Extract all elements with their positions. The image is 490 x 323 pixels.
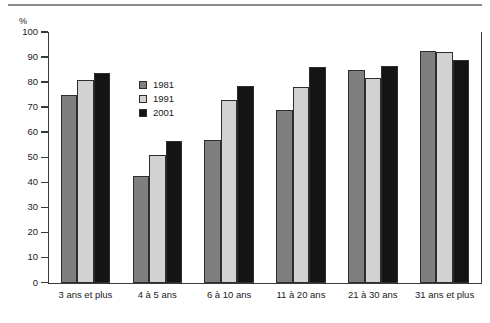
y-axis-tick xyxy=(41,232,48,234)
bar xyxy=(453,60,470,283)
y-axis-tick xyxy=(41,207,48,209)
bar xyxy=(149,155,166,283)
x-axis-category-label: 31 ans et plus xyxy=(399,289,490,300)
y-axis-tick-label: 90 xyxy=(0,52,38,62)
bar xyxy=(237,86,254,283)
y-axis-tick xyxy=(41,81,48,83)
y-axis-unit-label: % xyxy=(19,16,27,26)
legend-swatch xyxy=(139,81,147,89)
bar xyxy=(77,80,94,283)
bar xyxy=(133,176,150,282)
y-axis-tick xyxy=(41,131,48,133)
bar xyxy=(420,51,437,283)
bar-chart-figure: % 198119912001 10090807060504030201003 a… xyxy=(0,0,490,323)
legend-label: 1991 xyxy=(153,94,174,104)
y-axis-tick xyxy=(41,282,48,284)
bar xyxy=(221,100,238,283)
y-axis-tick-label: 60 xyxy=(0,127,38,137)
bar xyxy=(166,141,183,283)
bar xyxy=(309,67,326,282)
bar-group xyxy=(204,32,254,283)
bar-group xyxy=(276,32,326,283)
y-axis-tick xyxy=(41,106,48,108)
y-axis-tick-label: 70 xyxy=(0,102,38,112)
legend-item: 2001 xyxy=(139,106,174,119)
legend-swatch xyxy=(139,109,147,117)
bar-group xyxy=(133,32,183,283)
y-axis-tick xyxy=(41,182,48,184)
bar xyxy=(94,73,111,282)
bars-layer xyxy=(50,32,481,283)
y-axis-tick-label: 80 xyxy=(0,77,38,87)
y-axis-tick-label: 20 xyxy=(0,227,38,237)
bar-group xyxy=(61,32,111,283)
bar xyxy=(365,78,382,282)
legend-item: 1991 xyxy=(139,92,174,105)
y-axis-tick-label: 30 xyxy=(0,202,38,212)
legend-item: 1981 xyxy=(139,78,174,91)
legend-label: 2001 xyxy=(153,108,174,118)
chart-legend: 198119912001 xyxy=(139,78,174,120)
bar xyxy=(381,66,398,283)
legend-label: 1981 xyxy=(153,80,174,90)
y-axis-tick-label: 50 xyxy=(0,152,38,162)
bar xyxy=(204,140,221,283)
y-axis-tick xyxy=(41,56,48,58)
y-axis-tick-label: 40 xyxy=(0,177,38,187)
bar xyxy=(293,87,310,282)
bar xyxy=(436,52,453,282)
y-axis-tick xyxy=(41,157,48,159)
y-axis-tick xyxy=(41,257,48,259)
bar xyxy=(276,110,293,283)
y-axis-tick-label: 100 xyxy=(0,27,38,37)
bar xyxy=(61,95,78,283)
bar-group xyxy=(348,32,398,283)
y-axis-tick-label: 10 xyxy=(0,252,38,262)
y-axis-tick xyxy=(41,31,48,33)
bar-group xyxy=(420,32,470,283)
bar xyxy=(348,70,365,283)
legend-swatch xyxy=(139,95,147,103)
y-axis-tick-label: 0 xyxy=(0,278,38,288)
top-divider-rule xyxy=(8,4,482,6)
